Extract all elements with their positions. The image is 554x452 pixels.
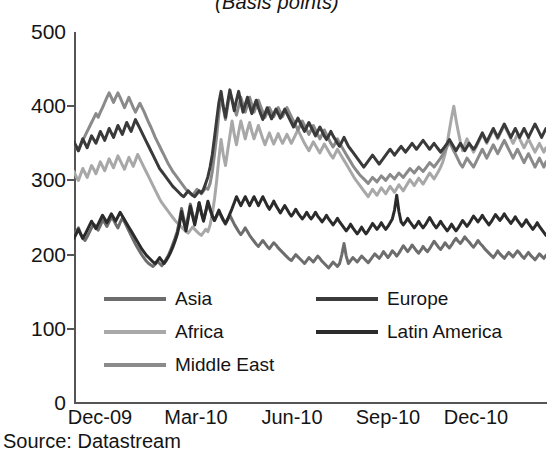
chart-title: (Basis points) bbox=[0, 0, 554, 14]
y-axis-tick-mark bbox=[67, 105, 75, 107]
legend-label: Europe bbox=[387, 289, 448, 308]
legend-label: Africa bbox=[175, 322, 224, 341]
y-axis-tick-label: 100 bbox=[8, 318, 66, 339]
legend-label: Middle East bbox=[175, 355, 274, 374]
x-axis-tick-label: Dec-09 bbox=[68, 406, 132, 429]
legend-swatch-icon bbox=[104, 363, 166, 367]
y-axis-tick-label: 400 bbox=[8, 95, 66, 116]
legend-swatch-icon bbox=[316, 330, 378, 334]
legend-item-middle-east[interactable]: Middle East bbox=[104, 355, 274, 374]
legend-swatch-icon bbox=[316, 297, 378, 301]
source-note: Source: Datastream bbox=[3, 430, 181, 452]
y-axis-labels: 5004003002001000 bbox=[0, 0, 66, 452]
chart-legend: AsiaAfricaMiddle EastEuropeLatin America bbox=[104, 289, 524, 379]
x-axis-tick-label: Jun-10 bbox=[261, 406, 322, 429]
x-axis-tick-label: Sep-10 bbox=[356, 406, 421, 429]
chart-figure: (Basis points) 5004003002001000 Dec-09Ma… bbox=[0, 0, 554, 452]
legend-item-asia[interactable]: Asia bbox=[104, 289, 212, 308]
y-axis-tick-label: 200 bbox=[8, 244, 66, 265]
legend-swatch-icon bbox=[104, 297, 166, 301]
legend-swatch-icon bbox=[104, 330, 166, 334]
series-line-asia bbox=[74, 203, 546, 268]
y-axis-tick-mark bbox=[67, 328, 75, 330]
series-line-latin-america bbox=[74, 195, 546, 263]
y-axis-tick-mark bbox=[67, 179, 75, 181]
legend-label: Latin America bbox=[387, 322, 502, 341]
legend-label: Asia bbox=[175, 289, 212, 308]
legend-item-africa[interactable]: Africa bbox=[104, 322, 224, 341]
legend-item-latin-america[interactable]: Latin America bbox=[316, 322, 502, 341]
y-axis-tick-label: 300 bbox=[8, 169, 66, 190]
legend-item-europe[interactable]: Europe bbox=[316, 289, 448, 308]
y-axis-tick-label: 500 bbox=[8, 21, 66, 42]
x-axis-tick-label: Dec-10 bbox=[444, 406, 508, 429]
y-axis-tick-mark bbox=[67, 254, 75, 256]
x-axis-tick-label: Mar-10 bbox=[164, 406, 227, 429]
series-line-europe bbox=[74, 90, 546, 197]
